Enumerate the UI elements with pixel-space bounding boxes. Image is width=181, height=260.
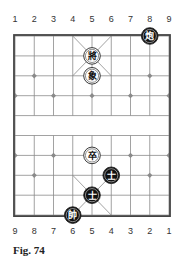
xiangqi-diagram: 123456789 炮將象卒士士帥 987654321 Fig. 74 <box>0 0 181 260</box>
star-point-marker <box>32 73 37 78</box>
bottom-label-7: 7 <box>48 226 60 236</box>
piece-glyph: 象 <box>88 70 97 81</box>
bottom-label-6: 6 <box>67 226 79 236</box>
bottom-label-3: 3 <box>125 226 137 236</box>
figure-caption: Fig. 74 <box>13 244 45 256</box>
star-point-marker <box>89 93 94 98</box>
black-advisor-piece: 士 <box>103 167 120 184</box>
piece-glyph: 士 <box>88 190 97 201</box>
piece-glyph: 炮 <box>145 30 154 41</box>
bottom-label-2: 2 <box>144 226 156 236</box>
bottom-label-1: 1 <box>163 226 175 236</box>
bottom-label-8: 8 <box>28 226 40 236</box>
piece-glyph: 將 <box>88 50 97 61</box>
bottom-label-5: 5 <box>86 226 98 236</box>
bottom-label-9: 9 <box>9 226 21 236</box>
white-general-piece: 將 <box>84 48 101 65</box>
white-elephant-piece: 象 <box>84 68 101 85</box>
xiangqi-board: 炮將象卒士士帥 <box>0 0 181 260</box>
black-cannon-piece: 炮 <box>141 28 158 45</box>
piece-glyph: 帥 <box>68 209 77 220</box>
star-point-marker <box>166 93 169 98</box>
star-point-marker <box>147 173 152 178</box>
black-advisor-piece: 士 <box>84 187 101 204</box>
black-general-piece: 帥 <box>64 207 81 224</box>
white-soldier-piece: 卒 <box>84 147 101 164</box>
star-point-marker <box>15 153 18 158</box>
star-point-marker <box>147 73 152 78</box>
star-point-marker <box>128 153 133 158</box>
star-point-marker <box>128 93 133 98</box>
star-point-marker <box>166 153 169 158</box>
piece-glyph: 卒 <box>88 150 97 161</box>
star-point-marker <box>51 153 56 158</box>
star-point-marker <box>15 93 18 98</box>
star-point-marker <box>51 93 56 98</box>
piece-glyph: 士 <box>107 170 116 181</box>
bottom-label-4: 4 <box>105 226 117 236</box>
star-point-marker <box>32 173 37 178</box>
